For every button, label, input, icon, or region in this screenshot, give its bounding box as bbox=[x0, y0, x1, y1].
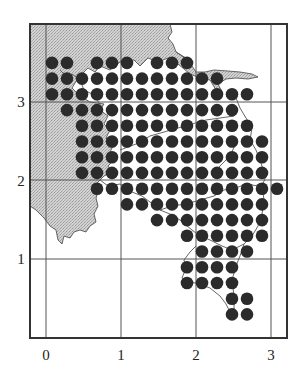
sample-point bbox=[226, 88, 239, 101]
sample-point bbox=[226, 308, 239, 321]
sample-point bbox=[256, 198, 269, 211]
sample-point bbox=[226, 214, 239, 227]
sample-point bbox=[136, 198, 149, 211]
sample-point bbox=[226, 245, 239, 258]
sample-point bbox=[181, 214, 194, 227]
sample-point bbox=[196, 167, 209, 180]
sample-point bbox=[151, 135, 164, 148]
sample-point bbox=[181, 72, 194, 85]
sample-point bbox=[136, 151, 149, 164]
sample-point bbox=[106, 57, 119, 70]
sample-point bbox=[106, 151, 119, 164]
sample-point bbox=[91, 135, 104, 148]
sample-point bbox=[196, 151, 209, 164]
sample-point bbox=[196, 245, 209, 258]
sample-point bbox=[196, 182, 209, 195]
sample-point bbox=[181, 57, 194, 70]
sample-point bbox=[106, 104, 119, 117]
x-tick-3: 3 bbox=[267, 347, 275, 363]
sample-point bbox=[121, 104, 134, 117]
sample-point bbox=[211, 198, 224, 211]
sample-point bbox=[76, 135, 89, 148]
y-tick-2: 2 bbox=[17, 173, 25, 189]
sample-point bbox=[211, 72, 224, 85]
sample-point bbox=[196, 214, 209, 227]
sample-point bbox=[181, 120, 194, 133]
sample-point bbox=[241, 151, 254, 164]
sample-point bbox=[106, 120, 119, 133]
sample-point bbox=[181, 88, 194, 101]
survey-map: 0 1 2 3 3 2 1 bbox=[0, 0, 305, 375]
sample-point bbox=[166, 72, 179, 85]
sample-point bbox=[121, 88, 134, 101]
sample-point bbox=[211, 214, 224, 227]
sample-point bbox=[166, 167, 179, 180]
sample-point bbox=[211, 182, 224, 195]
sample-point bbox=[241, 230, 254, 243]
sample-point bbox=[151, 57, 164, 70]
sample-point bbox=[151, 198, 164, 211]
sample-point bbox=[211, 277, 224, 290]
sample-point bbox=[121, 57, 134, 70]
sample-point bbox=[151, 104, 164, 117]
sample-point bbox=[91, 151, 104, 164]
sample-point bbox=[61, 104, 74, 117]
x-tick-1: 1 bbox=[117, 347, 125, 363]
sample-point bbox=[121, 135, 134, 148]
x-tick-0: 0 bbox=[42, 347, 50, 363]
sample-point bbox=[46, 57, 59, 70]
sample-point bbox=[121, 72, 134, 85]
sample-point bbox=[181, 104, 194, 117]
sample-point bbox=[256, 182, 269, 195]
sample-point bbox=[151, 167, 164, 180]
sample-point bbox=[211, 230, 224, 243]
sample-point bbox=[196, 277, 209, 290]
sample-point bbox=[91, 167, 104, 180]
sample-point bbox=[136, 104, 149, 117]
sample-point bbox=[166, 120, 179, 133]
sample-point bbox=[136, 88, 149, 101]
sample-point bbox=[166, 57, 179, 70]
sample-point bbox=[136, 135, 149, 148]
sample-point bbox=[121, 151, 134, 164]
sample-point bbox=[226, 151, 239, 164]
sample-point bbox=[256, 230, 269, 243]
sample-point bbox=[241, 292, 254, 305]
sample-point bbox=[181, 230, 194, 243]
sample-point bbox=[76, 104, 89, 117]
sample-point bbox=[226, 120, 239, 133]
sample-point bbox=[241, 167, 254, 180]
sample-point bbox=[46, 88, 59, 101]
sample-point bbox=[151, 72, 164, 85]
sample-point bbox=[181, 135, 194, 148]
sample-point bbox=[91, 72, 104, 85]
sample-point bbox=[166, 104, 179, 117]
sample-point bbox=[166, 214, 179, 227]
sample-point bbox=[241, 182, 254, 195]
sample-point bbox=[61, 57, 74, 70]
y-tick-1: 1 bbox=[17, 251, 25, 267]
shaded-region bbox=[30, 24, 258, 244]
sample-point bbox=[76, 167, 89, 180]
sample-point bbox=[166, 88, 179, 101]
sample-point bbox=[136, 182, 149, 195]
sample-point bbox=[151, 214, 164, 227]
sample-point bbox=[226, 104, 239, 117]
sample-point bbox=[181, 261, 194, 274]
sample-point bbox=[151, 88, 164, 101]
sample-point bbox=[76, 151, 89, 164]
sample-point bbox=[121, 182, 134, 195]
sample-point bbox=[226, 230, 239, 243]
sample-point bbox=[211, 120, 224, 133]
sample-point bbox=[181, 151, 194, 164]
sample-point bbox=[181, 182, 194, 195]
sample-point bbox=[61, 72, 74, 85]
sample-point bbox=[226, 277, 239, 290]
sample-point bbox=[136, 72, 149, 85]
sample-point bbox=[91, 104, 104, 117]
sample-point bbox=[76, 120, 89, 133]
sample-point bbox=[196, 72, 209, 85]
sample-point bbox=[241, 198, 254, 211]
sample-point bbox=[211, 167, 224, 180]
sample-point bbox=[256, 135, 269, 148]
